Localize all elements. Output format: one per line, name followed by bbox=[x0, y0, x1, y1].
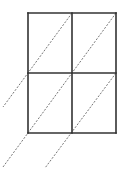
diagonal-lines bbox=[3, 13, 116, 168]
lattice-grid-diagram bbox=[0, 0, 125, 172]
diagonal-dashed-line-1 bbox=[3, 13, 116, 167]
diagonal-dashed-line-2 bbox=[45, 73, 116, 168]
diagonal-dashed-line-0 bbox=[3, 13, 72, 107]
